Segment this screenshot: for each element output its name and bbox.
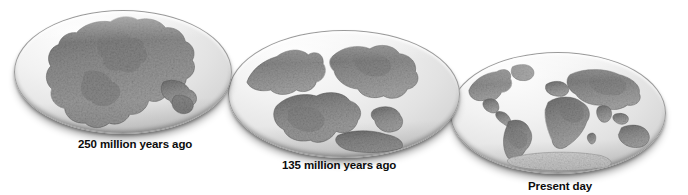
caption-135-million-years: 135 million years ago (282, 159, 396, 171)
globe-present-day (450, 52, 666, 174)
globe-disc (14, 10, 232, 134)
globe-disc (450, 52, 666, 174)
globe-250-million-years (14, 10, 232, 134)
present-day-continents (451, 53, 665, 173)
continental-drift-figure: 250 million years ago (0, 0, 688, 195)
globe-135-million-years (228, 30, 460, 158)
pangaea-landmass (15, 11, 231, 133)
laurasia-gondwana-landmasses (229, 31, 459, 157)
caption-present-day: Present day (528, 180, 592, 192)
globe-disc (228, 30, 460, 158)
caption-250-million-years: 250 million years ago (78, 138, 192, 150)
